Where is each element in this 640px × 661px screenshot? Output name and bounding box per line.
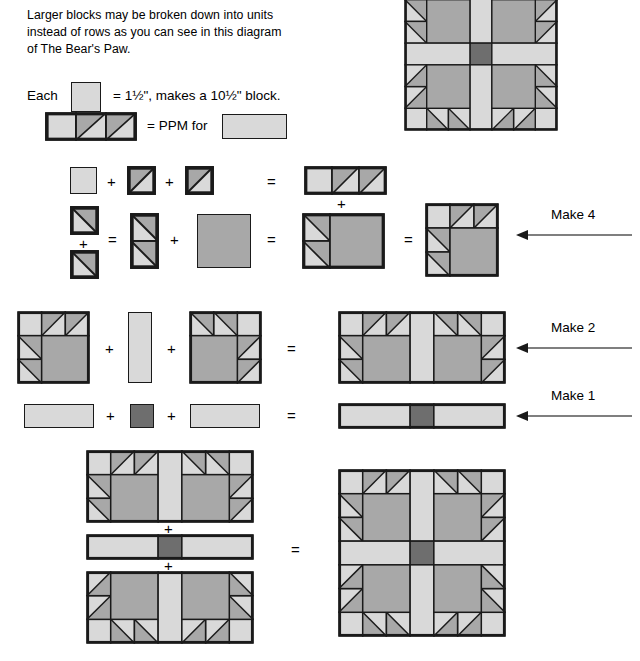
eqD-light-rect-1 xyxy=(24,404,94,428)
final-sashing-row xyxy=(87,535,253,559)
eqC-equals: = xyxy=(287,341,296,356)
eqC-paw-unit-left xyxy=(18,312,89,383)
eqB-medium-square xyxy=(197,214,251,268)
eqD-sashing-row-result xyxy=(339,404,505,428)
eqD-light-rect-2 xyxy=(190,404,260,428)
make1-arrow xyxy=(516,409,632,423)
eqB-paw-unit-result xyxy=(426,204,498,276)
eqC-plus-2: + xyxy=(167,341,176,356)
bears-paw-block-preview xyxy=(405,0,557,130)
final-equals: = xyxy=(291,542,300,557)
eqA-result-strip xyxy=(305,167,386,194)
legend-ppm-rectangle xyxy=(222,114,287,139)
eqB-plus-3: + xyxy=(337,196,346,211)
make2-arrow xyxy=(516,341,632,355)
legend-each-equals: = 1½", makes a 10½" block. xyxy=(113,88,281,103)
eqB-hst-square-1 xyxy=(71,207,98,234)
eqB-hst-square-2 xyxy=(71,251,98,278)
eqC-sashing-strip xyxy=(128,312,152,383)
eqC-paw-row-result xyxy=(339,312,505,383)
final-plus-1: + xyxy=(164,521,173,536)
eqA-plus-2: + xyxy=(165,174,174,189)
legend-ppm-equals: = PPM for xyxy=(147,118,207,133)
eqA-hst-square-1 xyxy=(128,167,155,194)
legend-each-label: Each xyxy=(27,88,58,103)
legend-unit-square xyxy=(71,82,101,112)
make2-label: Make 2 xyxy=(551,320,595,335)
eqD-plus-2: + xyxy=(167,408,176,423)
final-bears-paw-block xyxy=(339,470,505,636)
eqC-plus-1: + xyxy=(105,341,114,356)
eqD-equals: = xyxy=(287,408,296,423)
make4-label: Make 4 xyxy=(551,207,595,222)
eqA-equals: = xyxy=(267,174,276,189)
eqA-light-square xyxy=(70,167,97,194)
intro-paragraph: Larger blocks may be broken down into un… xyxy=(27,7,347,59)
eqB-partial-paw xyxy=(303,214,384,268)
final-plus-2: + xyxy=(164,558,173,573)
eqC-paw-unit-right xyxy=(190,312,261,383)
eqB-equals-3: = xyxy=(404,232,413,247)
eqB-plus-1: + xyxy=(79,236,88,251)
eqB-equals-1: = xyxy=(108,232,117,247)
eqA-plus-1: + xyxy=(107,174,116,189)
make1-label: Make 1 xyxy=(551,388,595,403)
eqB-equals-2: = xyxy=(267,232,276,247)
make4-arrow xyxy=(516,228,632,242)
eqA-hst-square-2 xyxy=(186,167,213,194)
final-paw-row-bottom xyxy=(87,572,253,643)
eqD-plus-1: + xyxy=(106,408,115,423)
eqB-plus-2: + xyxy=(170,232,179,247)
final-paw-row-top xyxy=(87,451,253,522)
eqB-hst-column xyxy=(131,214,158,268)
legend-ppm-strip xyxy=(46,113,136,140)
eqD-dark-square xyxy=(130,404,154,428)
